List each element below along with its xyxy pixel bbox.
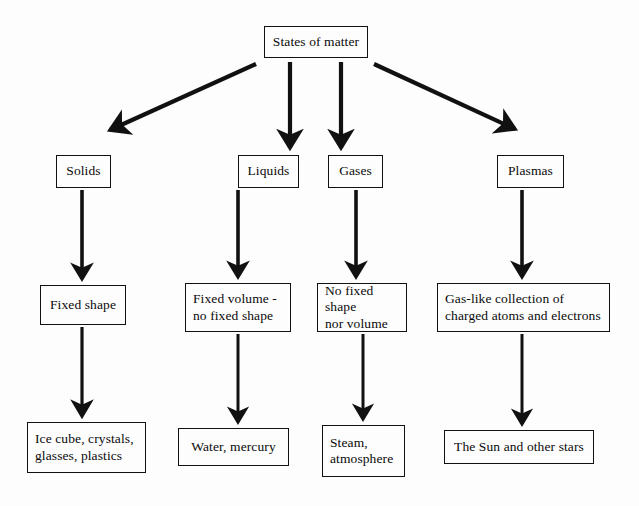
node-gases: Gases (328, 155, 383, 188)
connector-states-of-matter-to-plasmas (374, 64, 515, 129)
node-gases-label: Gases (329, 163, 382, 179)
node-plasmas: Plasmas (497, 155, 564, 188)
node-steam: Steam,atmosphere (322, 425, 405, 477)
node-ice-cube-label: Ice cube, crystals,glasses, plastics (28, 431, 145, 464)
node-the-sun-label: The Sun and other stars (445, 439, 593, 455)
node-no-fixed-shape-label: No fixed shapenor volume (318, 283, 406, 332)
node-states-of-matter-label: States of matter (265, 34, 367, 50)
node-liquids: Liquids (238, 155, 299, 188)
node-fixed-volume-label: Fixed volume -no fixed shape (186, 291, 290, 324)
node-solids: Solids (56, 155, 111, 188)
node-steam-label: Steam,atmosphere (323, 435, 404, 468)
node-water: Water, mercury (178, 428, 289, 466)
flowchart-states-of-matter: States of matter Solids Liquids Gases Pl… (0, 0, 639, 506)
node-solids-label: Solids (57, 163, 110, 179)
node-no-fixed-shape: No fixed shapenor volume (317, 283, 407, 332)
node-plasmas-label: Plasmas (498, 163, 563, 179)
node-the-sun: The Sun and other stars (444, 430, 594, 464)
node-fixed-shape-label: Fixed shape (41, 297, 125, 313)
node-gas-like-label: Gas-like collection ofcharged atoms and … (438, 291, 609, 324)
connector-states-of-matter-to-solids (110, 64, 256, 130)
node-fixed-volume: Fixed volume -no fixed shape (185, 283, 291, 332)
node-gas-like: Gas-like collection ofcharged atoms and … (437, 283, 610, 332)
node-water-label: Water, mercury (179, 439, 288, 455)
node-states-of-matter: States of matter (264, 26, 368, 58)
node-fixed-shape: Fixed shape (40, 285, 126, 325)
node-liquids-label: Liquids (239, 163, 298, 179)
node-ice-cube: Ice cube, crystals,glasses, plastics (27, 422, 146, 473)
